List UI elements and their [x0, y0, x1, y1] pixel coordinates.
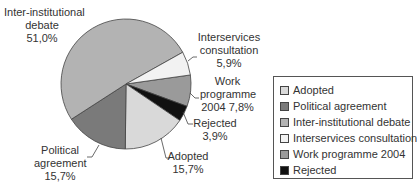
legend-item-work-programme: Work programme 2004 — [280, 146, 412, 162]
legend-item-adopted: Adopted — [280, 82, 412, 98]
pie-slices — [61, 19, 191, 149]
legend-item-interservices: Interservices consultation — [280, 130, 412, 146]
legend-swatch — [280, 134, 289, 143]
legend-swatch — [280, 166, 289, 175]
legend-item-political-agreement: Political agreement — [280, 98, 412, 114]
label-rejected: Rejected 3,9% — [192, 117, 238, 143]
label-inter-institutional: Inter-institutional debate 51,0% — [4, 6, 80, 45]
legend-item-inter-institutional: Inter-institutional debate — [280, 114, 412, 130]
legend-swatch — [280, 86, 289, 95]
legend-swatch — [280, 150, 289, 159]
legend: Adopted Political agreement Inter-instit… — [273, 76, 413, 179]
legend-swatch — [280, 118, 289, 127]
label-adopted: Adopted 15,7% — [166, 150, 210, 176]
label-political-agreement: Political agreement 15,7% — [34, 144, 86, 183]
label-work-programme: Work programme 2004 7,8% — [200, 75, 255, 114]
legend-item-rejected: Rejected — [280, 162, 412, 178]
legend-swatch — [280, 102, 289, 111]
label-interservices: Interservices consultation 5,9% — [196, 31, 262, 70]
